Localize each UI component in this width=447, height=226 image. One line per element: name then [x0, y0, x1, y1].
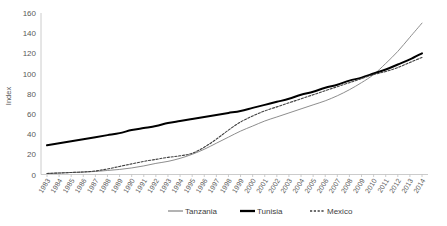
- x-axis-tick-labels: 1983198419851986198719881989199019911992…: [37, 175, 426, 195]
- y-axis-tick-label: 120: [23, 49, 37, 58]
- y-axis-tick-label: 20: [27, 150, 36, 159]
- y-axis-title-text: Index: [4, 87, 13, 106]
- legend-label-tunisia: Tunisia: [257, 207, 283, 216]
- y-axis-tick-label: 100: [23, 70, 37, 79]
- x-axis-tick-label: 2010: [364, 177, 378, 194]
- legend-label-mexico: Mexico: [327, 207, 353, 216]
- line-chart: 020406080100120140160 Index 198319841985…: [0, 0, 447, 226]
- y-axis-tick-label: 0: [32, 171, 37, 180]
- chart-legend: TanzaniaTunisiaMexico: [168, 207, 353, 216]
- chart-canvas: 020406080100120140160 Index 198319841985…: [0, 0, 447, 226]
- y-axis-tick-labels: 020406080100120140160: [23, 9, 37, 180]
- y-axis-tick-label: 60: [27, 110, 36, 119]
- y-axis-tick-label: 40: [27, 130, 36, 139]
- y-axis-title: Index: [4, 87, 13, 106]
- y-axis-tick-label: 80: [27, 90, 36, 99]
- y-axis-tick-label: 140: [23, 29, 37, 38]
- series-line-tanzania: [47, 23, 422, 173]
- series-line-tunisia: [47, 53, 422, 145]
- y-axis-tick-label: 160: [23, 9, 37, 18]
- legend-label-tanzania: Tanzania: [185, 207, 218, 216]
- x-axis-tick-label: 2014: [412, 177, 426, 194]
- series-line-mexico: [47, 57, 422, 173]
- series-group: [47, 23, 422, 173]
